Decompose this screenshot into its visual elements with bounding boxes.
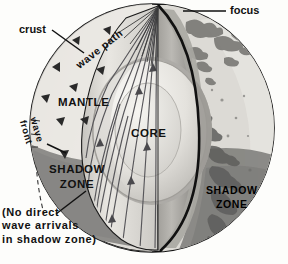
shadow-note-line1: (No direct <box>2 206 97 218</box>
label-shadow-zone-left: SHADOW ZONE <box>49 163 105 191</box>
shadow-zone-right-line1: SHADOW <box>206 185 257 197</box>
shadow-note-line3: in shadow zone) <box>2 233 97 245</box>
label-crust: crust <box>19 23 46 35</box>
label-shadow-zone-right: SHADOW ZONE <box>206 185 257 211</box>
shadow-zone-right-line2: ZONE <box>206 199 257 211</box>
label-mantle: MANTLE <box>58 96 110 109</box>
label-core: CORE <box>131 127 167 140</box>
label-focus: focus <box>230 4 259 16</box>
shadow-zone-left-line1: SHADOW <box>49 163 105 176</box>
shadow-note-line2: wave arrivals <box>2 219 97 231</box>
figure-canvas: focus crust wave path wave front MANTLE … <box>0 0 288 264</box>
shadow-zone-left-line2: ZONE <box>49 178 105 191</box>
shadow-zone-note: (No direct wave arrivals in shadow zone) <box>2 206 97 245</box>
